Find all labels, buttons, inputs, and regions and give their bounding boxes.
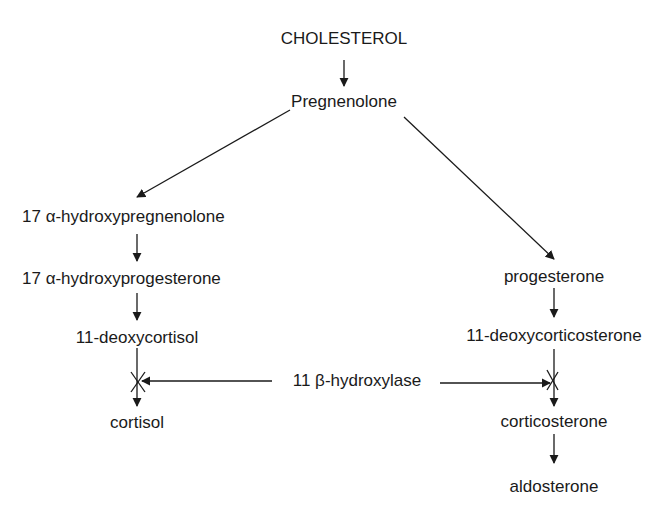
node-11-deoxycorticosterone: 11-deoxycorticosterone xyxy=(466,326,641,346)
node-progesterone: progesterone xyxy=(504,267,604,287)
node-pregnenolone: Pregnenolone xyxy=(291,92,397,112)
node-11-deoxycortisol: 11-deoxycortisol xyxy=(76,328,199,348)
node-17a-hydroxyprogesterone: 17 α-hydroxyprogesterone xyxy=(22,269,221,289)
node-cortisol: cortisol xyxy=(110,413,164,433)
node-corticosterone: corticosterone xyxy=(501,412,608,432)
node-cholesterol: CHOLESTEROL xyxy=(281,29,408,49)
enzyme-label-11b-hydroxylase: 11 β-hydroxylase xyxy=(290,371,425,391)
node-aldosterone: aldosterone xyxy=(510,477,599,497)
node-17a-hydroxypregnenolone: 17 α-hydroxypregnenolone xyxy=(22,207,225,227)
